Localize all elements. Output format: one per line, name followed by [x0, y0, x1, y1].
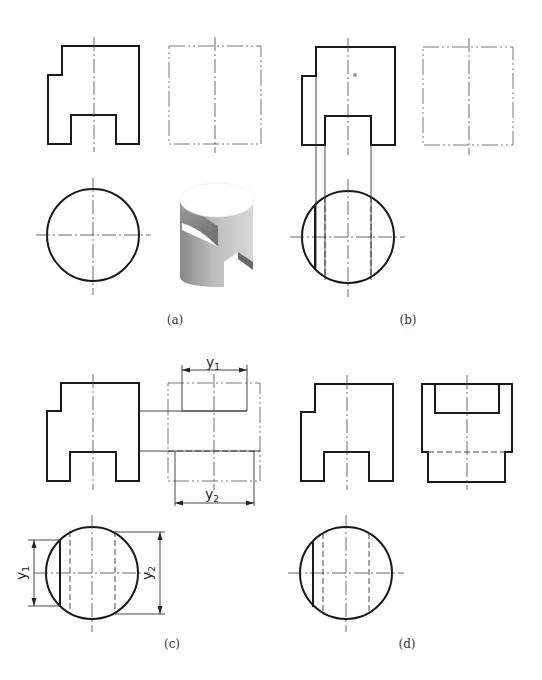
side-view-b: [423, 38, 513, 155]
panel-b: (b): [290, 38, 513, 327]
front-view-d: [301, 375, 393, 490]
dimension-y1-horizontal: y1: [182, 354, 247, 373]
top-view-b: [290, 179, 405, 297]
caption-c: (c): [164, 637, 180, 651]
caption-a: (a): [167, 313, 184, 327]
top-view-d: [288, 515, 404, 632]
side-view-d: [422, 375, 512, 490]
front-view-c: [47, 374, 260, 490]
dim-y1-label: y1: [206, 354, 220, 372]
panel-a: (a): [36, 37, 261, 327]
caption-b: (b): [399, 313, 416, 327]
projection-lines-b: [316, 76, 371, 280]
panel-d: (d): [288, 375, 512, 651]
dim-y2-vertical-label: y2: [139, 566, 157, 580]
front-view-a: [48, 37, 139, 152]
top-view-a: [36, 178, 151, 295]
isometric-view-a: [180, 183, 254, 287]
dim-y1-vertical-label: y1: [13, 566, 31, 580]
caption-d: (d): [398, 637, 415, 651]
side-view-a: [169, 37, 261, 153]
dim-y2-label: y2: [205, 486, 219, 504]
panel-c: y1 y2 y1 y2 (c): [13, 354, 260, 651]
three-view-drawing: (a) (b): [0, 0, 542, 680]
side-view-c: [168, 365, 260, 506]
dimension-y2-horizontal: y2: [175, 486, 254, 506]
